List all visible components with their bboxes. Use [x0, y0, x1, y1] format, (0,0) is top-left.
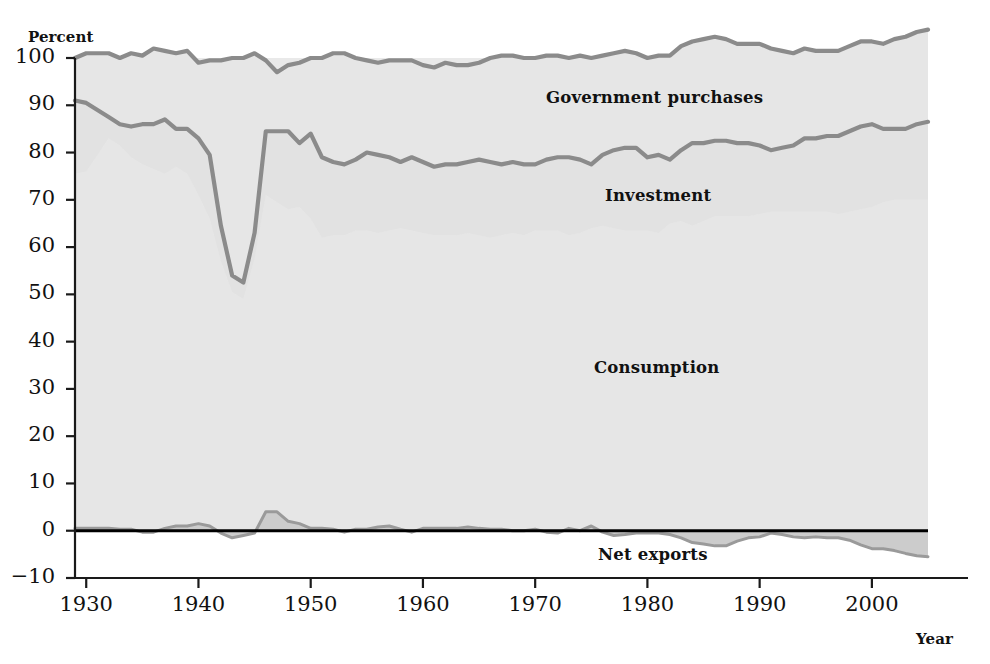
x-tick-label: 1950	[276, 592, 346, 616]
y-tick-label: 40	[7, 328, 55, 352]
x-tick-label: 1990	[725, 592, 795, 616]
y-tick-label: 30	[7, 375, 55, 399]
y-tick-label: 70	[7, 186, 55, 210]
y-tick-label: 100	[7, 44, 55, 68]
series-label-government-purchases: Government purchases	[546, 88, 763, 107]
x-tick-label: 2000	[837, 592, 907, 616]
x-tick-label: 1970	[500, 592, 570, 616]
x-tick-label: 1930	[51, 592, 121, 616]
series-label-net-exports: Net exports	[598, 545, 708, 564]
x-tick-label: 1940	[163, 592, 233, 616]
y-tick-label: 60	[7, 233, 55, 257]
chart-plot-area	[0, 0, 990, 664]
series-label-investment: Investment	[605, 186, 711, 205]
x-tick-label: 1980	[612, 592, 682, 616]
x-tick-label: 1960	[388, 592, 458, 616]
y-tick-label: 10	[7, 469, 55, 493]
y-tick-label: 90	[7, 91, 55, 115]
y-tick-label: 80	[7, 139, 55, 163]
y-tick-label: 20	[7, 422, 55, 446]
series-label-consumption: Consumption	[594, 358, 720, 377]
y-tick-label: 0	[7, 517, 55, 541]
chart-figure: Percent Year 1009080706050403020100−10 1…	[0, 0, 990, 664]
y-tick-label: 50	[7, 280, 55, 304]
y-tick-label: −10	[7, 564, 55, 588]
